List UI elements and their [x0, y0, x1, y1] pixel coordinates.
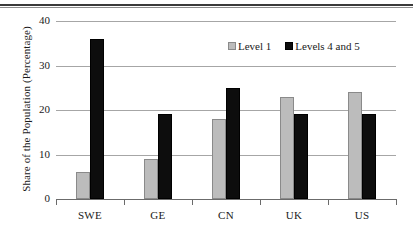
legend-entry[interactable]: Level 1 [228, 40, 271, 52]
bar [158, 114, 172, 199]
legend-label: Level 1 [238, 40, 271, 52]
x-axis-tick-label: GE [123, 209, 193, 221]
top-rule-thin [0, 7, 413, 8]
x-axis-tick-label: US [327, 209, 397, 221]
x-axis-tick [192, 199, 193, 205]
legend-swatch-icon [228, 42, 236, 50]
legend-entry[interactable]: Levels 4 and 5 [285, 40, 359, 52]
legend: Level 1Levels 4 and 5 [228, 40, 360, 52]
y-axis-tick-label: 30 [26, 60, 50, 71]
x-axis-line [56, 199, 397, 200]
bar-group [76, 21, 104, 199]
x-axis-tick [56, 199, 57, 205]
y-axis-tick-label: 0 [26, 193, 50, 204]
bar [90, 39, 104, 199]
x-axis-tick [124, 199, 125, 205]
y-axis-tick-label: 20 [26, 104, 50, 115]
bar [362, 114, 376, 199]
x-axis-tick [396, 199, 397, 205]
bar [348, 92, 362, 199]
top-rule-thick [0, 4, 413, 6]
bar [212, 119, 226, 199]
bar [76, 172, 90, 199]
x-axis-tick [260, 199, 261, 205]
y-axis-tick-label: 40 [26, 15, 50, 26]
bar [226, 88, 240, 199]
bar [280, 97, 294, 199]
bar [144, 159, 158, 199]
bar-group [144, 21, 172, 199]
x-axis-tick-label: UK [259, 209, 329, 221]
legend-swatch-icon [285, 42, 293, 50]
legend-label: Levels 4 and 5 [295, 40, 359, 52]
y-axis-tick-label: 10 [26, 149, 50, 160]
bar [294, 114, 308, 199]
y-axis-tick-labels: 010203040 [24, 21, 50, 199]
x-axis-tick-label: SWE [55, 209, 125, 221]
x-axis-tick-label: CN [191, 209, 261, 221]
figure-container: Share of the Population (Percentage) 010… [0, 0, 413, 236]
x-axis-tick [328, 199, 329, 205]
